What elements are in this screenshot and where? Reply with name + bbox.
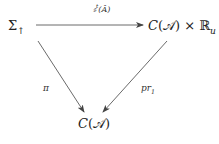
- label-top-arrow: 𝔰t(Â): [93, 6, 110, 14]
- node-sigma: Σ↑: [8, 19, 25, 32]
- node-product: C(𝒜) × ℝu: [148, 19, 216, 32]
- label-left-arrow: π: [43, 84, 49, 93]
- node-bottom: C(𝒜): [78, 117, 110, 130]
- arrow-left: [38, 41, 84, 112]
- sigma-subscript: ↑: [17, 26, 25, 36]
- label-right-arrow: pr1: [141, 84, 155, 93]
- arrow-right: [103, 41, 167, 112]
- sigma-symbol: Σ: [8, 18, 17, 33]
